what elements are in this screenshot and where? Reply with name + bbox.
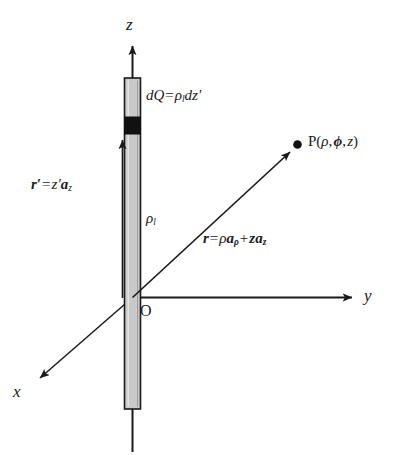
point-P-close-paren: ): [353, 133, 358, 149]
point-P-phi: ϕ: [334, 133, 343, 149]
origin-label: O: [140, 303, 152, 319]
y-axis-label: y: [364, 287, 372, 304]
field-vector-r-arrow: [133, 152, 291, 298]
x-axis-line: [40, 298, 133, 379]
dQ-prime: ′: [198, 87, 201, 103]
line-charge-figure: z y x O dQ=ρldz′ r′=z′az ρl r=ρaρ+zaz P(…: [0, 0, 413, 455]
r-unit-a-z-subscript: z: [263, 237, 267, 247]
diagram-canvas: [0, 0, 413, 455]
dQ-dz: dz: [185, 87, 198, 103]
field-point-dot: [293, 140, 302, 149]
r-equals: =: [209, 230, 219, 246]
field-point-label: P(ρ, ϕ, z): [308, 134, 358, 149]
r-rho: ρ: [219, 230, 226, 246]
x-axis-label: x: [13, 383, 21, 400]
point-P-comma-2: ,: [342, 133, 346, 149]
r-prime-unit-subscript: z: [68, 183, 72, 193]
charge-element-equation: dQ=ρldz′: [146, 88, 201, 104]
line-charge-density-label: ρl: [146, 211, 156, 227]
r-symbol: r: [203, 230, 209, 246]
r-unit-a-rho: a: [227, 230, 235, 246]
point-P-rho: ρ: [321, 133, 328, 149]
r-plus: +: [239, 230, 249, 246]
dQ-rho: ρ: [175, 87, 182, 103]
charge-element-dQ: [125, 117, 141, 134]
point-P-comma-1: ,: [329, 133, 333, 149]
dQ-equals: =: [164, 87, 174, 103]
r-unit-a-z: a: [255, 230, 263, 246]
r-prime-equals: =: [41, 176, 51, 192]
z-axis-label: z: [126, 16, 133, 33]
field-vector-equation: r=ρaρ+zaz: [203, 231, 266, 247]
source-vector-equation: r′=z′az: [31, 177, 72, 193]
dQ-term: dQ: [146, 87, 164, 103]
line-density-subscript: l: [153, 217, 156, 227]
